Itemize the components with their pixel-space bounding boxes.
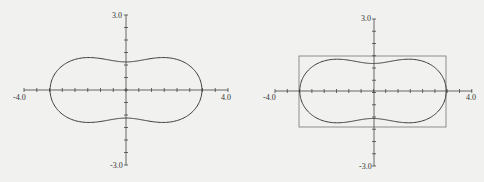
bounding-rectangle — [299, 56, 446, 127]
right-x-min-label: -4.0 — [263, 93, 276, 102]
right-x-max-label: 4.0 — [466, 93, 476, 102]
figure: -4.0 4.0 3.0 -3.0 -4.0 4.0 3.0 -3.0 — [0, 0, 484, 182]
left-y-axis — [124, 15, 128, 165]
left-x-max-label: 4.0 — [221, 93, 231, 102]
left-y-max-label: 3.0 — [112, 11, 122, 20]
right-y-min-label: -3.0 — [359, 162, 372, 171]
left-y-min-label: -3.0 — [110, 161, 123, 170]
right-y-axis — [372, 19, 376, 166]
left-x-min-label: -4.0 — [13, 93, 26, 102]
left-plot: -4.0 4.0 3.0 -3.0 — [13, 11, 231, 170]
right-y-max-label: 3.0 — [361, 14, 371, 23]
right-plot: -4.0 4.0 3.0 -3.0 — [263, 14, 476, 171]
